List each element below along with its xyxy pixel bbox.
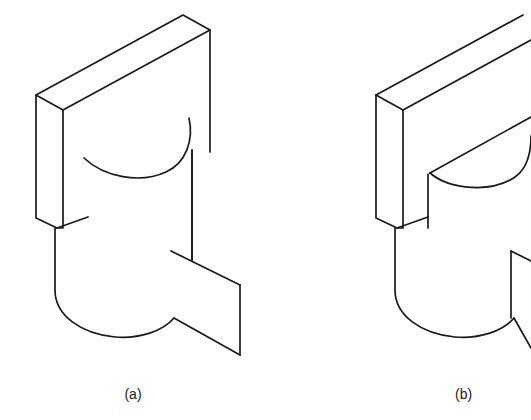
figure-a: (a) <box>36 15 240 402</box>
figure-a-cylinder-top-rim-arc <box>84 118 190 178</box>
figure-b-flange-fill <box>511 251 531 348</box>
figure-b-slab-left-end-face <box>376 95 403 228</box>
figure-b-slab-top-fill <box>376 15 531 110</box>
figure-a-caption: (a) <box>124 386 141 402</box>
figure-b-slab-top-face-outer <box>376 15 523 95</box>
figure-b-cylinder-top-rim-arc <box>430 136 531 188</box>
figure-a-slab-left-end-face <box>36 95 63 228</box>
figure-b-caption: (b) <box>455 386 472 402</box>
isometric-drawing-canvas: (a) <box>0 0 531 420</box>
figure-a-slab-top-fill <box>36 15 210 110</box>
figure-a-flange-fill <box>171 251 240 355</box>
figure-plate: (a) <box>0 0 531 420</box>
figure-b: (b) <box>376 15 531 402</box>
figure-b-cylinder-top-rim-chord <box>430 117 531 173</box>
